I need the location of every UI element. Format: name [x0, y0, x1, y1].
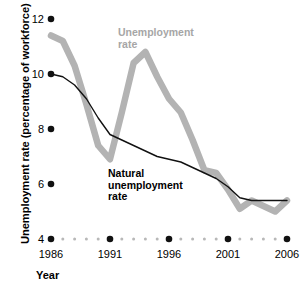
tick-dot: [179, 238, 182, 241]
tick-dot: [191, 238, 194, 241]
tick-dot: [156, 238, 159, 241]
y-tick-dots: [48, 16, 55, 243]
tick-dot: [48, 16, 55, 23]
tick-dot: [166, 236, 173, 243]
tick-dot: [61, 238, 64, 241]
tick-dot: [48, 236, 55, 243]
tick-dot: [107, 236, 114, 243]
tick-dot: [215, 238, 218, 241]
tick-dot: [73, 238, 76, 241]
series-line-unemployment-rate: [51, 36, 287, 212]
chart-container: Unemployment rate (percentage of workfor…: [0, 0, 306, 293]
tick-dot: [132, 238, 135, 241]
tick-dot: [144, 238, 147, 241]
tick-dot: [284, 236, 291, 243]
x-tick-dots: [61, 236, 290, 243]
tick-dot: [203, 238, 206, 241]
tick-dot: [48, 126, 55, 133]
tick-dot: [262, 238, 265, 241]
tick-dot: [274, 238, 277, 241]
tick-dot: [48, 181, 55, 188]
plot-area: [0, 0, 306, 293]
tick-dot: [97, 238, 100, 241]
tick-dot: [250, 238, 253, 241]
tick-dot: [85, 238, 88, 241]
tick-dot: [120, 238, 123, 241]
tick-dot: [238, 238, 241, 241]
tick-dot: [225, 236, 232, 243]
